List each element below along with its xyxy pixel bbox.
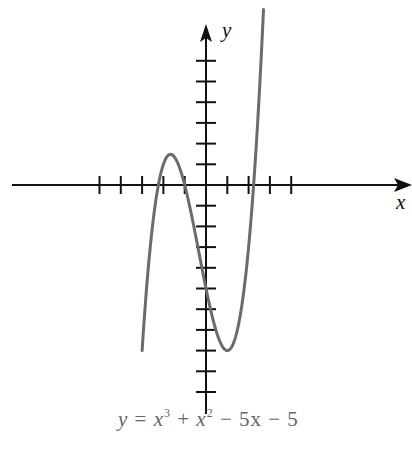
axes xyxy=(12,36,400,414)
x-axis-label: x xyxy=(396,190,405,215)
y-axis-label: y xyxy=(222,18,231,43)
cubic-function-plot xyxy=(0,0,412,457)
equation-label: y = x3 + x2 − 5x − 5 xyxy=(118,406,299,432)
